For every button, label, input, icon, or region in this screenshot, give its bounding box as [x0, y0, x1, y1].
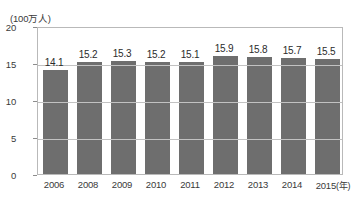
gridline — [38, 65, 342, 66]
bar — [145, 62, 170, 174]
bar — [43, 70, 68, 174]
bar-value-label: 15.2 — [79, 49, 98, 60]
bar — [179, 62, 204, 174]
x-axis-tick-label: 2008 — [78, 179, 98, 190]
bar-value-label: 15.8 — [249, 44, 268, 55]
bar — [247, 57, 272, 174]
bar-value-label: 14.1 — [45, 57, 64, 68]
y-axis-tick-label: 15 — [0, 59, 16, 70]
bar-value-label: 15.5 — [317, 46, 336, 57]
bar-value-label: 15.9 — [215, 43, 234, 54]
x-axis-year-text: 2009 — [112, 179, 132, 190]
bar-chart-figure: (100万人) 0510152014.1200615.2200815.32009… — [0, 0, 360, 200]
bar — [111, 61, 136, 174]
y-axis-tick-label: 10 — [0, 96, 16, 107]
y-axis-tick-mark — [33, 27, 37, 28]
y-axis-tick-mark — [33, 101, 37, 102]
bar-value-label: 15.3 — [113, 48, 132, 59]
x-axis-year-text: 2014 — [282, 179, 302, 190]
bar — [77, 62, 102, 174]
x-axis-tick-label: 2015(年) — [316, 179, 351, 192]
bar — [315, 59, 340, 174]
x-axis-unit-suffix: (年) — [336, 181, 350, 191]
gridline — [38, 102, 342, 103]
x-axis-year-text: 2011 — [180, 179, 200, 190]
x-axis-year-text: 2012 — [214, 179, 234, 190]
bar-value-label: 15.1 — [181, 49, 200, 60]
x-axis-tick-label: 2006 — [44, 179, 64, 190]
y-axis-tick-mark — [33, 138, 37, 139]
x-axis-tick-label: 2010 — [146, 179, 166, 190]
x-axis-year-text: 2015 — [316, 180, 336, 191]
x-axis-tick-label: 2013 — [248, 179, 268, 190]
bar — [281, 58, 306, 174]
x-axis-tick-label: 2009 — [112, 179, 132, 190]
bar — [213, 56, 238, 174]
y-axis-tick-label: 0 — [0, 170, 16, 181]
x-axis-year-text: 2006 — [44, 179, 64, 190]
x-axis-tick-label: 2014 — [282, 179, 302, 190]
y-axis-tick-mark — [33, 64, 37, 65]
x-axis-year-text: 2010 — [146, 179, 166, 190]
gridline — [38, 139, 342, 140]
bar-value-label: 15.2 — [147, 49, 166, 60]
x-axis-year-text: 2008 — [78, 179, 98, 190]
y-axis-tick-mark — [33, 175, 37, 176]
y-axis-tick-label: 5 — [0, 133, 16, 144]
x-axis-year-text: 2013 — [248, 179, 268, 190]
y-axis-tick-label: 20 — [0, 22, 16, 33]
x-axis-tick-label: 2011 — [180, 179, 200, 190]
y-axis-unit-label: (100万人) — [10, 11, 51, 25]
x-axis-tick-label: 2012 — [214, 179, 234, 190]
bar-value-label: 15.7 — [283, 45, 302, 56]
